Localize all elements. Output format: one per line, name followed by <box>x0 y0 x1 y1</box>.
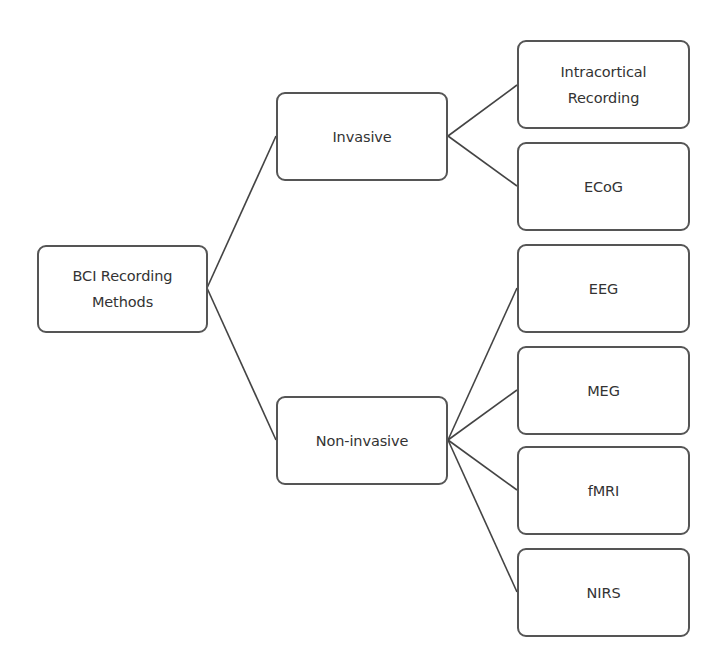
node-non-invasive: Non-invasive <box>276 396 448 485</box>
connector-noninvasive-meg <box>448 390 517 440</box>
connector-noninvasive-eeg <box>448 288 517 440</box>
node-intracortical-recording: Intracortical Recording <box>517 40 690 129</box>
node-meg-label: MEG <box>587 378 620 404</box>
node-eeg: EEG <box>517 244 690 333</box>
node-ecog-label: ECoG <box>584 174 623 200</box>
node-intracortical-recording-label: Intracortical Recording <box>560 59 646 111</box>
node-root: BCI Recording Methods <box>37 245 208 333</box>
connector-noninvasive-fmri <box>448 440 517 490</box>
node-non-invasive-label: Non-invasive <box>316 428 409 454</box>
connector-root-noninvasive <box>207 288 276 440</box>
node-eeg-label: EEG <box>589 276 618 302</box>
node-invasive: Invasive <box>276 92 448 181</box>
connector-root-invasive <box>207 136 276 288</box>
connector-invasive-ecog <box>448 136 517 186</box>
connector-invasive-intracortical <box>448 85 517 136</box>
node-ecog: ECoG <box>517 142 690 231</box>
node-nirs-label: NIRS <box>586 580 620 606</box>
node-fmri-label: fMRI <box>588 478 620 504</box>
connector-noninvasive-nirs <box>448 440 517 592</box>
node-root-label: BCI Recording Methods <box>73 263 173 315</box>
node-fmri: fMRI <box>517 446 690 535</box>
node-nirs: NIRS <box>517 548 690 637</box>
node-meg: MEG <box>517 346 690 435</box>
node-invasive-label: Invasive <box>332 124 391 150</box>
